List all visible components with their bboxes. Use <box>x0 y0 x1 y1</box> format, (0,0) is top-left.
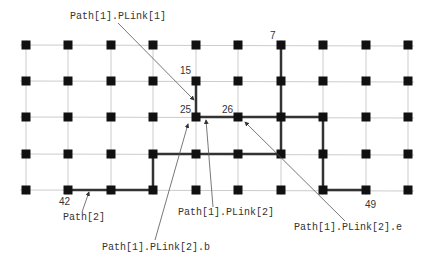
node-label-15: 15 <box>180 65 192 76</box>
grid-node <box>107 41 116 50</box>
node-label-26: 26 <box>222 104 234 115</box>
grid-node <box>22 77 31 86</box>
grid-node <box>362 150 371 159</box>
grid-row-line <box>20 81 414 82</box>
annotation-path1-plink2-e: Path[1].PLink[2].e <box>294 222 402 233</box>
grid-node <box>192 150 201 159</box>
annotation-leader-line <box>206 120 213 207</box>
grid-node <box>234 113 243 122</box>
grid-node <box>107 113 116 122</box>
grid-node <box>277 186 286 195</box>
annotation-path1-plink1: Path[1].PLink[1] <box>70 11 166 22</box>
grid-node <box>234 41 243 50</box>
grid-node <box>362 113 371 122</box>
grid-node <box>319 77 328 86</box>
grid-row-line <box>20 45 414 46</box>
grid-node <box>404 77 413 86</box>
grid-node <box>362 186 371 195</box>
node-label-25: 25 <box>180 104 192 115</box>
grid-node <box>64 77 73 86</box>
grid-node <box>107 77 116 86</box>
grid-node <box>404 186 413 195</box>
grid-node <box>192 113 201 122</box>
grid-node <box>192 41 201 50</box>
grid-node <box>319 41 328 50</box>
grid-node <box>319 186 328 195</box>
grid-node <box>404 150 413 159</box>
grid-network-diagram: 7 15 25 26 42 49 Path[1].PLink[1] Path[1… <box>0 0 429 265</box>
grid-node <box>362 41 371 50</box>
grid-node <box>107 150 116 159</box>
node-label-7: 7 <box>270 30 276 41</box>
grid-node <box>22 186 31 195</box>
grid-node <box>319 150 328 159</box>
grid-node <box>362 77 371 86</box>
annotation-leader-line <box>118 23 194 100</box>
grid-node <box>234 150 243 159</box>
grid-node <box>277 113 286 122</box>
grid-node <box>404 113 413 122</box>
grid-node <box>404 41 413 50</box>
grid-node <box>107 186 116 195</box>
grid-node <box>149 113 158 122</box>
grid-node <box>277 41 286 50</box>
annotation-path1-plink2-b: Path[1].PLink[2].b <box>102 242 210 253</box>
grid-node <box>192 186 201 195</box>
grid-node <box>192 77 201 86</box>
annotation-path2: Path[2] <box>63 212 105 223</box>
grid-node <box>319 113 328 122</box>
grid-node <box>64 113 73 122</box>
grid-node <box>234 186 243 195</box>
annotation-leader-line <box>155 124 188 240</box>
grid-node <box>64 41 73 50</box>
grid-node <box>277 77 286 86</box>
grid-node <box>149 186 158 195</box>
grid-node <box>149 77 158 86</box>
node-label-42: 42 <box>59 196 71 207</box>
grid-node <box>22 113 31 122</box>
grid-node <box>149 150 158 159</box>
grid-node <box>22 41 31 50</box>
grid-node <box>64 186 73 195</box>
grid-node <box>149 41 158 50</box>
grid-node <box>234 77 243 86</box>
node-label-49: 49 <box>365 199 377 210</box>
annotation-leader-line <box>82 192 89 212</box>
grid-node <box>22 150 31 159</box>
annotation-path1-plink2: Path[1].PLink[2] <box>178 207 274 218</box>
grid-node <box>64 150 73 159</box>
